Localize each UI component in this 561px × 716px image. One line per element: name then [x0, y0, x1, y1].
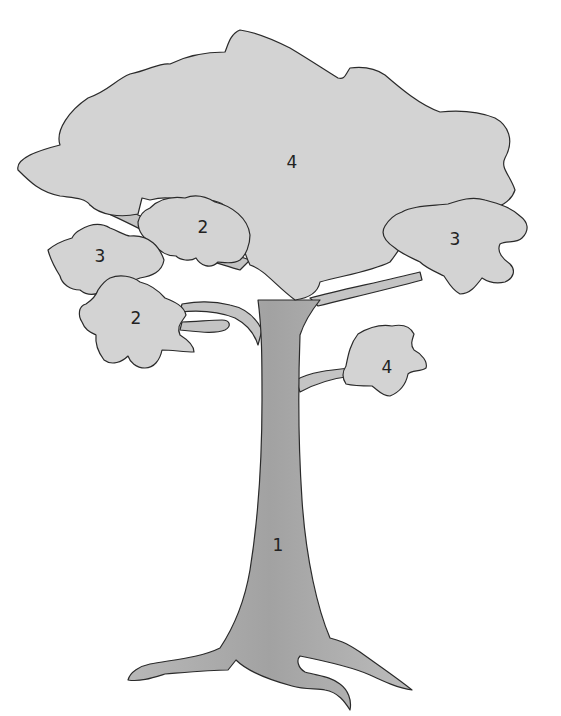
label-cluster-left: 3 — [95, 246, 106, 266]
tree-diagram: 1 4 2 3 2 3 4 — [0, 0, 561, 716]
label-cluster-small-right: 4 — [382, 357, 393, 377]
branch-left-loop — [180, 320, 229, 332]
label-cluster-right: 3 — [450, 229, 461, 249]
label-cluster-lower-left: 2 — [131, 308, 142, 328]
label-canopy-main: 4 — [287, 152, 298, 172]
label-cluster-upper-left: 2 — [198, 217, 209, 237]
label-trunk: 1 — [273, 535, 284, 555]
